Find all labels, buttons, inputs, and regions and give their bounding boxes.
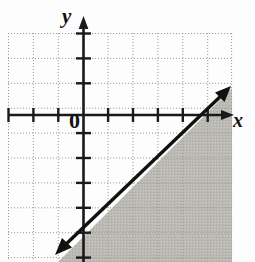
- graph-figure: y x 0: [0, 0, 255, 262]
- x-axis-label: x: [233, 110, 243, 130]
- coordinate-plane: [0, 0, 255, 262]
- origin-label: 0: [69, 110, 80, 132]
- y-axis-label: y: [62, 6, 71, 27]
